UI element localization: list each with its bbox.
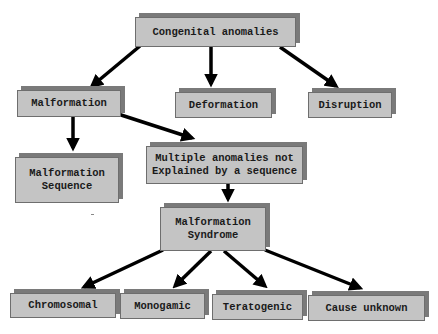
node-malformation: Malformation [17, 90, 121, 117]
arrow-syndrome-to-teratogenic [224, 251, 265, 286]
arrow-syndrome-to-chromosomal [84, 250, 163, 287]
arrow-congenital-to-disruption [280, 47, 336, 86]
flowchart: Congenital anomalies Malformation Deform… [0, 0, 438, 334]
node-disruption: Disruption [308, 92, 392, 118]
node-congenital-anomalies: Congenital anomalies [135, 17, 296, 47]
arrow-congenital-to-malformation [92, 46, 140, 86]
stray-mark [91, 214, 94, 215]
node-cause-unknown: Cause unknown [308, 295, 425, 321]
node-multiple-anomalies: Multiple anomalies not Explained by a se… [146, 146, 303, 184]
node-malformation-syndrome: Malformation Syndrome [160, 207, 266, 251]
node-teratogenic: Teratogenic [212, 294, 303, 320]
node-malformation-sequence: Malformation Sequence [15, 157, 119, 203]
arrow-syndrome-to-cause-unknown [265, 250, 360, 288]
node-chromosomal: Chromosomal [10, 293, 116, 318]
node-monogamic: Monogamic [120, 293, 205, 319]
node-deformation: Deformation [175, 92, 272, 118]
arrow-syndrome-to-monogamic [175, 251, 211, 286]
